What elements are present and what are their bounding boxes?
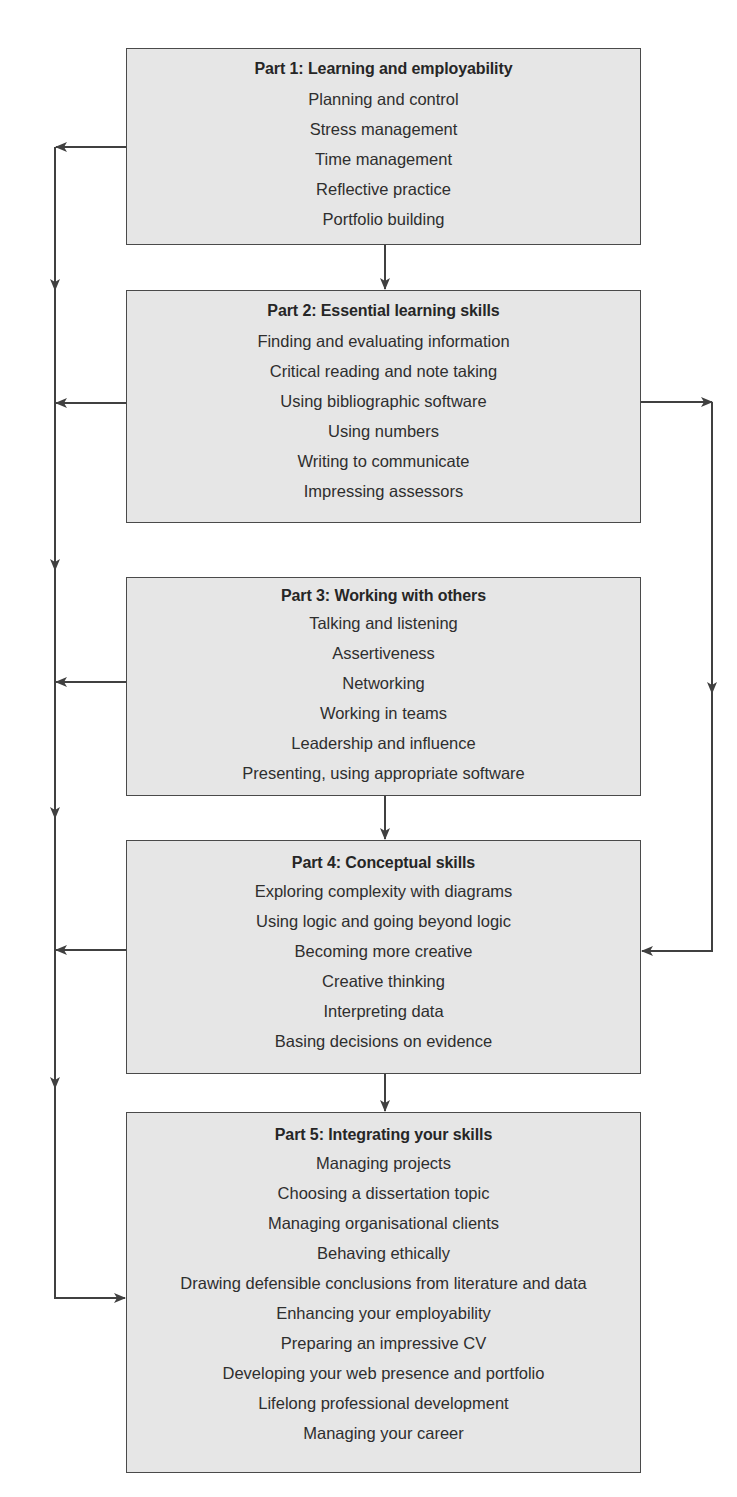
part-4-item: Interpreting data (127, 996, 640, 1026)
part-4-box: Part 4: Conceptual skills Exploring comp… (126, 840, 641, 1074)
part-5-item: Developing your web presence and portfol… (127, 1358, 640, 1388)
part-1-item: Reflective practice (127, 174, 640, 204)
part-1-item: Portfolio building (127, 204, 640, 234)
part-1-item: Planning and control (127, 84, 640, 114)
part-5-item: Lifelong professional development (127, 1388, 640, 1418)
part-2-title: Part 2: Essential learning skills (127, 301, 640, 321)
part-4-title: Part 4: Conceptual skills (127, 853, 640, 873)
part-2-item: Writing to communicate (127, 446, 640, 476)
part-5-title: Part 5: Integrating your skills (127, 1125, 640, 1145)
part-3-item: Assertiveness (127, 638, 640, 668)
part-3-item: Leadership and influence (127, 728, 640, 758)
part-3-title: Part 3: Working with others (127, 586, 640, 606)
part-5-item: Choosing a dissertation topic (127, 1178, 640, 1208)
part-4-item: Using logic and going beyond logic (127, 906, 640, 936)
part-5-item: Enhancing your employability (127, 1298, 640, 1328)
part-2-item: Impressing assessors (127, 476, 640, 506)
right-bus-to-part4 (642, 691, 712, 951)
part-5-item: Managing projects (127, 1148, 640, 1178)
part-5-box: Part 5: Integrating your skills Managing… (126, 1112, 641, 1473)
part-1-box: Part 1: Learning and employability Plann… (126, 48, 641, 245)
part-2-box: Part 2: Essential learning skills Findin… (126, 290, 641, 523)
part-5-item: Managing your career (127, 1418, 640, 1448)
part-5-item: Preparing an impressive CV (127, 1328, 640, 1358)
left-bus-to-part5 (55, 1086, 125, 1298)
part-1-item: Stress management (127, 114, 640, 144)
part-2-item: Using bibliographic software (127, 386, 640, 416)
part-1-title: Part 1: Learning and employability (127, 59, 640, 79)
part-3-box: Part 3: Working with others Talking and … (126, 577, 641, 796)
part-3-item: Presenting, using appropriate software (127, 758, 640, 788)
part-2-item: Finding and evaluating information (127, 326, 640, 356)
part-2-item: Using numbers (127, 416, 640, 446)
part-5-item: Behaving ethically (127, 1238, 640, 1268)
part-5-item: Drawing defensible conclusions from lite… (127, 1268, 640, 1298)
part-3-item: Talking and listening (127, 608, 640, 638)
part-4-item: Basing decisions on evidence (127, 1026, 640, 1056)
part-2-item: Critical reading and note taking (127, 356, 640, 386)
part-3-item: Networking (127, 668, 640, 698)
part-4-item: Exploring complexity with diagrams (127, 876, 640, 906)
part-4-item: Creative thinking (127, 966, 640, 996)
part-4-item: Becoming more creative (127, 936, 640, 966)
part-1-item: Time management (127, 144, 640, 174)
part-3-item: Working in teams (127, 698, 640, 728)
part-5-item: Managing organisational clients (127, 1208, 640, 1238)
